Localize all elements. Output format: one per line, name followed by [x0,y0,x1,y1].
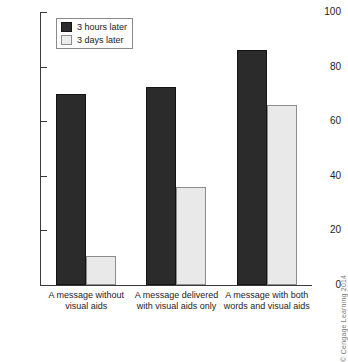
x-axis-category-label: A message with bothwords and visual aids [216,290,318,312]
bar-light [86,256,116,285]
legend-label: 3 hours later [77,22,127,32]
legend-item-3-hours-later: 3 hours later [61,22,127,32]
legend-item-3-days-later: 3 days later [61,35,127,45]
y-axis-tick-label: 100 [311,7,341,17]
copyright-credit: © Cengage Learning 2014 [340,275,348,362]
bar-group [131,12,221,285]
y-axis-tick-label: 40 [311,171,341,181]
y-axis-tick-label: 60 [311,116,341,126]
bar-dark [146,87,176,285]
bar-dark [56,94,86,285]
bar-group [222,12,312,285]
bar-light [267,105,297,285]
bar-dark [237,50,267,285]
category-label-line: words and visual aids [216,301,318,312]
y-axis-tick [41,285,47,286]
category-label-line: visual aids [35,301,137,312]
legend-swatch-icon-light [61,35,72,45]
x-axis-line [40,285,312,286]
y-axis-tick-label: 80 [311,62,341,72]
category-label-line: A message delivered [125,290,227,301]
category-label-line: with visual aids only [125,301,227,312]
legend-label: 3 days later [77,35,124,45]
x-axis-category-label: A message deliveredwith visual aids only [125,290,227,312]
legend-swatch-icon-dark [61,22,72,32]
category-label-line: A message with both [216,290,318,301]
bar-light [176,187,206,285]
chart-legend: 3 hours later 3 days later [56,18,133,49]
bar-group [41,12,131,285]
x-axis-category-label: A message withoutvisual aids [35,290,137,312]
y-axis-tick-label: 0 [311,280,341,290]
y-axis-tick-label: 20 [311,225,341,235]
category-label-line: A message without [35,290,137,301]
x-axis-category-labels: A message withoutvisual aidsA message de… [41,290,312,320]
plot-area [41,12,312,285]
